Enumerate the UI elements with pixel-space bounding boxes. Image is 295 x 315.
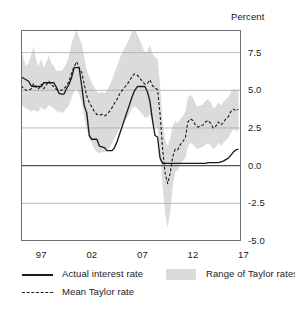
x-tick-label: 02 <box>86 249 97 260</box>
legend-label-actual-rate: Actual interest rate <box>62 268 143 279</box>
chart-legend: Actual interest rate Mean Taylor rate Ra… <box>22 268 284 310</box>
dashed-line-swatch <box>22 292 53 293</box>
legend-item-taylor-range: Range of Taylor rates <box>166 268 295 282</box>
legend-item-actual-rate: Actual interest rate <box>22 268 182 282</box>
x-tick-label: 97 <box>36 249 47 260</box>
x-tick-label: 12 <box>188 249 199 260</box>
plot-area <box>21 30 241 241</box>
legend-label-mean-taylor-rate: Mean Taylor rate <box>62 286 134 297</box>
band-swatch <box>166 269 196 280</box>
legend-item-mean-taylor-rate: Mean Taylor rate <box>22 286 182 300</box>
legend-label-taylor-range: Range of Taylor rates <box>206 268 295 279</box>
y-tick-label: 0.0 <box>248 160 262 171</box>
y-axis-title: Percent <box>231 11 264 22</box>
y-tick-label: 7.5 <box>248 47 262 58</box>
x-tick-label: 17 <box>238 249 249 260</box>
taylor-range-band <box>21 30 238 227</box>
taylor-rule-chart-figure: Percent 7.55.02.50.0-2.5-5.0 9702071217 … <box>0 0 295 315</box>
solid-line-swatch <box>22 274 53 276</box>
y-tick-label: -2.5 <box>248 197 265 208</box>
y-tick-label: 2.5 <box>248 122 262 133</box>
y-tick-label: 5.0 <box>248 84 262 95</box>
plot-svg <box>21 30 241 241</box>
y-tick-label: -5.0 <box>248 235 265 246</box>
x-tick-label: 07 <box>137 249 148 260</box>
